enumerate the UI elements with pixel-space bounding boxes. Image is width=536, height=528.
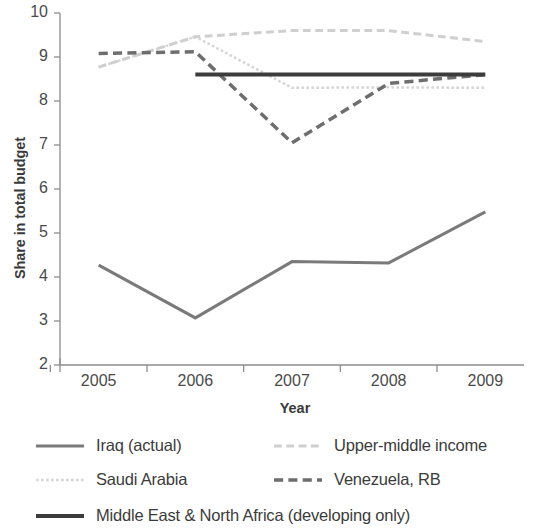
legend-item[interactable]: Saudi Arabia bbox=[34, 470, 187, 489]
legend-item[interactable]: Middle East & North Africa (developing o… bbox=[34, 506, 410, 525]
x-axis-title: Year bbox=[60, 400, 530, 416]
chart-figure: Share in total budget Year 1098765432 20… bbox=[0, 0, 536, 528]
plot-area bbox=[0, 0, 536, 400]
legend-item-label: Middle East & North Africa (developing o… bbox=[96, 506, 410, 525]
series-line-3 bbox=[99, 52, 486, 143]
legend-item[interactable]: Upper-middle income bbox=[272, 436, 487, 455]
legend-swatch-icon bbox=[272, 473, 324, 487]
legend-item-label: Upper-middle income bbox=[334, 436, 487, 455]
legend-item-label: Saudi Arabia bbox=[96, 470, 187, 489]
legend-item[interactable]: Venezuela, RB bbox=[272, 470, 441, 489]
legend-item-label: Iraq (actual) bbox=[96, 436, 181, 455]
legend-swatch-icon bbox=[34, 473, 86, 487]
legend-swatch-icon bbox=[34, 509, 86, 523]
legend-swatch-icon bbox=[34, 439, 86, 453]
legend-item-label: Venezuela, RB bbox=[334, 470, 441, 489]
legend-item[interactable]: Iraq (actual) bbox=[34, 436, 181, 455]
legend-swatch-icon bbox=[272, 439, 324, 453]
series-line-0 bbox=[99, 212, 486, 318]
